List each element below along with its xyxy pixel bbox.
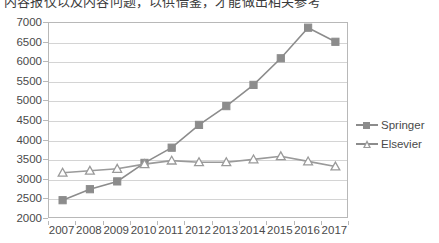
y-axis-tick-label: 5000 xyxy=(16,94,42,106)
series-line-springer xyxy=(63,28,336,201)
legend-label-elsevier: Elsevier xyxy=(381,138,422,150)
x-axis: 2007200820092010201120122013201420152016… xyxy=(48,221,348,241)
y-axis-tick-label: 6000 xyxy=(16,55,42,67)
data-point-springer[interactable] xyxy=(59,197,66,204)
y-axis-tick-label: 2500 xyxy=(16,192,42,204)
x-axis-tick xyxy=(212,221,213,225)
y-axis-tick-label: 3000 xyxy=(16,173,42,185)
data-point-springer[interactable] xyxy=(114,178,121,185)
x-axis-tick-label: 2008 xyxy=(76,224,102,236)
data-point-springer[interactable] xyxy=(332,38,339,45)
series-layer xyxy=(49,23,349,219)
y-axis: 2000250030003500400045005000550060006500… xyxy=(0,11,46,218)
y-axis-tick-label: 5500 xyxy=(16,75,42,87)
plot-area xyxy=(48,22,348,218)
x-axis-tick xyxy=(348,221,349,225)
data-point-springer[interactable] xyxy=(86,186,93,193)
y-axis-tick-label: 3500 xyxy=(16,153,42,165)
x-axis-tick xyxy=(157,221,158,225)
x-axis-tick xyxy=(48,221,49,225)
x-axis-tick-label: 2015 xyxy=(267,224,293,236)
clipped-header-text-label: 内容报仅以及内容问题，以供借鉴，才能做出相关参考 xyxy=(4,0,321,10)
y-axis-tick xyxy=(43,218,48,219)
x-axis-tick-label: 2014 xyxy=(240,224,266,236)
x-axis-tick xyxy=(266,221,267,225)
y-axis-tick-label: 2000 xyxy=(16,212,42,224)
y-axis-tick-label: 4500 xyxy=(16,114,42,126)
chart-legend: Springer Elsevier xyxy=(356,115,439,153)
x-axis-tick xyxy=(294,221,295,225)
data-point-springer[interactable] xyxy=(250,81,257,88)
legend-item-springer[interactable]: Springer xyxy=(356,115,439,134)
triangle-marker-icon xyxy=(356,138,378,149)
y-axis-tick-label: 6500 xyxy=(16,36,42,48)
x-axis-tick-label: 2009 xyxy=(103,224,129,236)
x-axis-tick-label: 2010 xyxy=(131,224,157,236)
x-axis-tick xyxy=(130,221,131,225)
data-point-elsevier[interactable] xyxy=(276,152,285,160)
x-axis-tick xyxy=(75,221,76,225)
x-axis-tick-label: 2013 xyxy=(213,224,239,236)
data-point-springer[interactable] xyxy=(195,121,202,128)
legend-item-elsevier[interactable]: Elsevier xyxy=(356,134,439,153)
data-point-springer[interactable] xyxy=(168,144,175,151)
x-axis-tick-label: 2011 xyxy=(158,224,183,236)
x-axis-tick-label: 2016 xyxy=(294,224,320,236)
data-point-springer[interactable] xyxy=(277,55,284,62)
y-axis-tick-label: 4000 xyxy=(16,134,42,146)
clipped-header-text: 内容报仅以及内容问题，以供借鉴，才能做出相关参考 xyxy=(0,0,439,11)
data-point-springer[interactable] xyxy=(223,103,230,110)
x-axis-tick-label: 2012 xyxy=(185,224,211,236)
x-axis-tick-label: 2017 xyxy=(322,224,348,236)
line-chart: 2000250030003500400045005000550060006500… xyxy=(0,11,439,243)
square-marker-icon xyxy=(356,119,378,130)
data-point-springer[interactable] xyxy=(305,24,312,31)
x-axis-tick xyxy=(239,221,240,225)
y-axis-tick-label: 7000 xyxy=(16,16,42,28)
x-axis-tick xyxy=(184,221,185,225)
x-axis-tick xyxy=(103,221,104,225)
x-axis-tick xyxy=(321,221,322,225)
x-axis-tick-label: 2007 xyxy=(49,224,75,236)
legend-label-springer: Springer xyxy=(381,119,424,131)
